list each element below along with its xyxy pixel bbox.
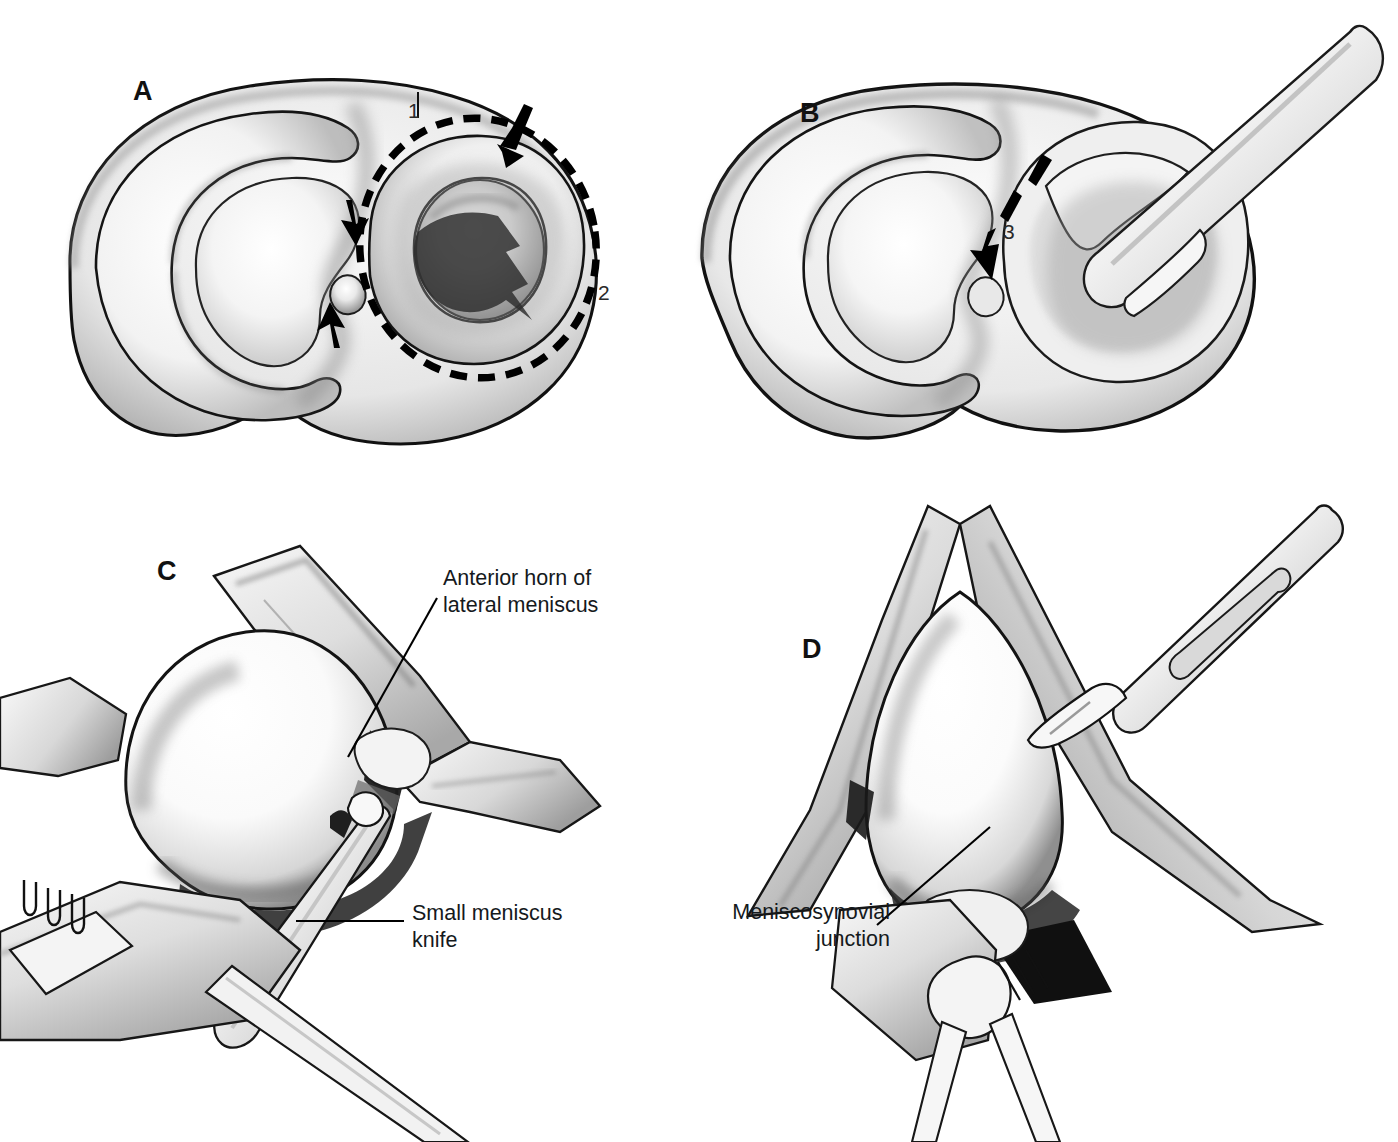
- scalpel: [1028, 506, 1343, 748]
- panel-b: B 3: [660, 0, 1398, 480]
- panel-letter-d: D: [802, 636, 822, 663]
- callout-small-meniscus-knife: Small meniscus knife: [412, 900, 563, 954]
- panel-a-label-1: 1: [408, 100, 420, 121]
- panel-letter-b: B: [800, 100, 820, 127]
- panel-letter-c: C: [157, 558, 177, 585]
- panel-b-artwork: [660, 0, 1398, 480]
- panel-a: A 1 2: [0, 0, 660, 480]
- panel-a-label-2: 2: [598, 282, 610, 303]
- panel-c: C Anterior horn of lateral meniscus Smal…: [0, 480, 660, 1142]
- panel-letter-a: A: [133, 78, 153, 105]
- panel-a-artwork: [0, 0, 660, 480]
- panel-b-label-3: 3: [1003, 221, 1015, 242]
- panel-d-artwork: [660, 480, 1398, 1142]
- soft-tissue-flap-left: [0, 678, 126, 776]
- callout-meniscosynovial-junction: Meniscosynovial junction: [650, 899, 890, 953]
- blunt-retractor: [206, 966, 468, 1142]
- panel-d: D Meniscosynovial junction: [660, 480, 1398, 1142]
- callout-anterior-horn-of-lateral-meniscus: Anterior horn of lateral meniscus: [443, 565, 598, 619]
- figure-root: A 1 2: [0, 0, 1398, 1142]
